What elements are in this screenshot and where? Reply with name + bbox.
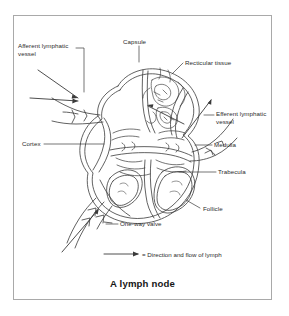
label-efferent-lymphatic-vessel: Efferent lymphatic vessel [216, 110, 276, 126]
figure-caption: A lymph node [13, 278, 272, 289]
label-medulla: Medulla [214, 141, 236, 149]
label-follicle: Follicle [203, 205, 223, 213]
legend-label: = Direction and flow of lymph [142, 251, 222, 258]
label-capsule: Capsule [123, 38, 146, 46]
label-afferent-lymphatic-vessel: Afferent lymphatic vessel [18, 42, 84, 58]
label-cortex: Cortex [22, 140, 41, 148]
label-one-way-valve: One-way valve [120, 220, 162, 228]
label-trabecula: Trabecula [218, 168, 246, 176]
figure-page: Afferent lymphatic vessel Capsule Rectic… [0, 0, 289, 316]
label-recticular-tissue: Recticular tissue [185, 59, 231, 67]
